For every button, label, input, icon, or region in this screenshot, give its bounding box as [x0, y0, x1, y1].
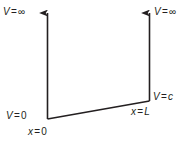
label-right-wall-potential-infinity: V=∞: [154, 6, 176, 17]
label-right-floor-position: x=L: [131, 106, 150, 117]
label-operator-equals: =: [13, 110, 21, 121]
label-symbol-v: V: [154, 6, 161, 17]
label-value-l: L: [144, 106, 150, 117]
label-value-zero: 0: [41, 126, 47, 137]
potential-well-figure: V=∞ V=∞ V=c x=L V=0 x=0: [0, 0, 196, 145]
label-operator-equals: =: [161, 6, 169, 17]
label-symbol-v: V: [6, 110, 13, 121]
label-value-infinity: ∞: [169, 6, 176, 17]
label-left-floor-potential: V=0: [6, 110, 27, 121]
label-operator-equals: =: [160, 91, 168, 102]
label-left-floor-position: x=0: [28, 126, 47, 137]
potential-well-diagram: [0, 0, 196, 145]
label-value-infinity: ∞: [18, 6, 25, 17]
label-right-floor-potential: V=c: [153, 91, 173, 102]
label-value-zero: 0: [21, 110, 27, 121]
label-symbol-v: V: [3, 6, 10, 17]
label-operator-equals: =: [10, 6, 18, 17]
label-symbol-v: V: [153, 91, 160, 102]
label-value-c: c: [168, 91, 173, 102]
figure-background: [0, 0, 196, 145]
label-left-wall-potential-infinity: V=∞: [3, 6, 25, 17]
